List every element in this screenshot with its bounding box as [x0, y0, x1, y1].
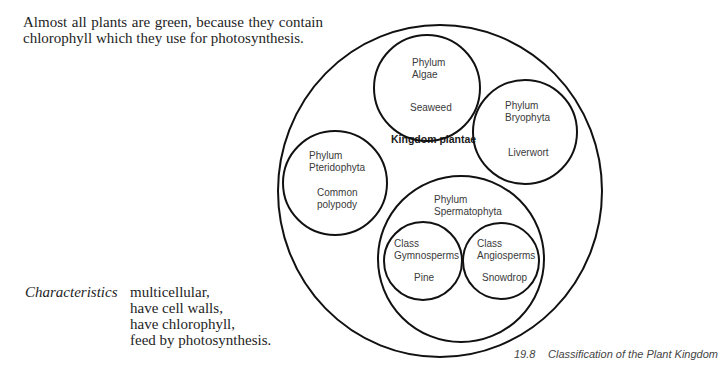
algae-circle: [374, 35, 480, 141]
angiosperms-name: Angiosperms: [477, 250, 535, 261]
spermatophyta-rank: Phylum: [434, 194, 467, 205]
bryophyta-rank: Phylum: [505, 100, 538, 111]
pteridophyta-example-1: Common: [317, 187, 358, 198]
algae-rank: Phylum: [412, 57, 445, 68]
spermatophyta-name: Spermatophyta: [434, 206, 502, 217]
characteristics-label: Characteristics: [25, 284, 118, 300]
algae-example: Seaweed: [410, 102, 452, 113]
characteristic-item: feed by photosynthesis.: [130, 332, 271, 348]
pteridophyta-rank: Phylum: [309, 150, 342, 161]
bryophyta-circle: [473, 80, 577, 184]
plant-kingdom-diagram: Kingdom plantae Phylum Algae Seaweed Phy…: [0, 0, 725, 382]
angiosperms-circle: [463, 223, 539, 299]
pteridophyta-circle: [283, 131, 387, 235]
characteristic-item: have cell walls,: [130, 300, 271, 316]
gymnosperms-name: Gymnosperms: [394, 250, 459, 261]
angiosperms-rank: Class: [477, 238, 502, 249]
characteristic-item: have chlorophyll,: [130, 316, 271, 332]
characteristic-item: multicellular,: [130, 284, 271, 300]
pteridophyta-name: Pteridophyta: [309, 162, 366, 173]
bryophyta-example: Liverwort: [508, 147, 549, 158]
gymnosperms-circle: [384, 222, 462, 300]
algae-name: Algae: [412, 69, 438, 80]
figure-number: 19.8: [514, 348, 548, 360]
characteristics-list: multicellular, have cell walls, have chl…: [130, 284, 271, 348]
bryophyta-name: Bryophyta: [505, 112, 550, 123]
figure-caption-text: Classification of the Plant Kingdom: [548, 348, 718, 360]
figure-caption: 19.8Classification of the Plant Kingdom: [514, 348, 718, 360]
pteridophyta-example-2: polypody: [317, 199, 357, 210]
angiosperms-example: Snowdrop: [482, 272, 527, 283]
gymnosperms-example: Pine: [414, 272, 434, 283]
gymnosperms-rank: Class: [394, 238, 419, 249]
